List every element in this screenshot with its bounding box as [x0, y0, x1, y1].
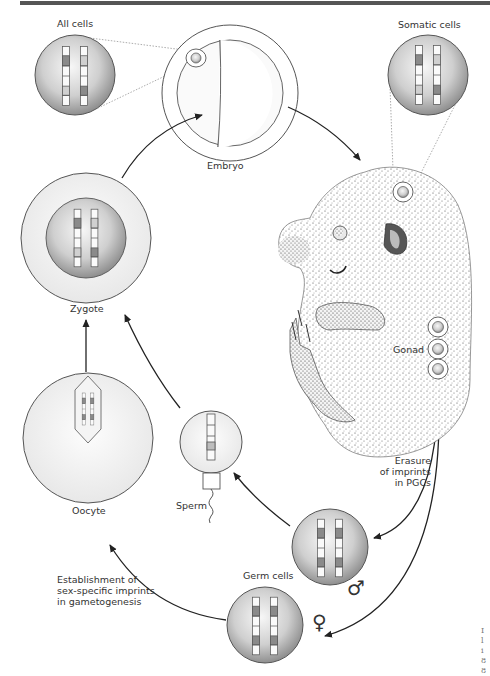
zygote [21, 173, 151, 303]
fetus-illustration [278, 167, 472, 457]
label-gonad: Gonad [393, 344, 424, 355]
label-somatic-cells: Somatic cells [398, 19, 461, 30]
embryo-blastocyst [162, 25, 298, 161]
oocyte [23, 373, 153, 503]
male-symbol-icon: ♂ [347, 578, 365, 598]
label-zygote: Zygote [70, 303, 104, 314]
arrow-male-germ-to-sperm [234, 473, 290, 526]
annotation-erasure: Erasure of imprints in PGCs [374, 455, 431, 488]
arrow-embryo-to-fetus [288, 107, 360, 160]
germ-cell-female [227, 587, 303, 663]
label-all-cells: All cells [57, 18, 93, 29]
cropped-caption-edge: I l i 8 8 [481, 626, 486, 676]
label-germ-cells: Germ cells [243, 570, 294, 581]
label-oocyte: Oocyte [72, 505, 106, 516]
label-embryo: Embryo [207, 160, 244, 171]
annotation-establishment: Establishment of sex-specific imprints i… [57, 574, 155, 607]
germ-cell-male [292, 509, 368, 585]
female-symbol-icon: ♀ [312, 612, 327, 632]
label-sperm: Sperm [176, 500, 207, 511]
somatic-cells-detail [388, 35, 468, 175]
